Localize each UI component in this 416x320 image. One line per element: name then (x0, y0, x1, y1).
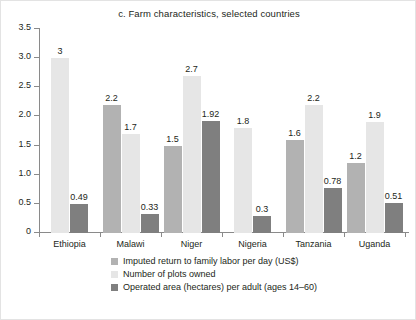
bar-value-label: 1.7 (124, 122, 137, 132)
x-tick-mark (222, 233, 223, 237)
legend-label: Number of plots owned (123, 269, 216, 279)
chart-figure: c. Farm characteristics, selected countr… (0, 0, 416, 320)
bar[interactable]: 1.92 (202, 121, 220, 233)
bar-value-label: 0.33 (141, 202, 159, 212)
legend-item[interactable]: Number of plots owned (111, 268, 317, 280)
x-axis-label-nigeria: Nigeria (222, 239, 283, 249)
legend-swatch-icon (111, 258, 118, 265)
bar-value-label: 0.78 (324, 176, 342, 186)
y-tick-label: 3.5 (1, 22, 31, 32)
bar-value-label: 2.2 (307, 93, 320, 103)
chart-title: c. Farm characteristics, selected countr… (1, 8, 416, 19)
y-tick-label: 1.0 (1, 168, 31, 178)
x-tick-mark (100, 233, 101, 237)
bar-value-label: 1.8 (237, 116, 250, 126)
x-axis-label-niger: Niger (161, 239, 222, 249)
bar-value-label: 1.6 (288, 128, 301, 138)
y-tick-label: 3.0 (1, 51, 31, 61)
bar-group: 1.62.20.78 (286, 27, 342, 233)
legend-label: Operated area (hectares) per adult (ages… (123, 282, 317, 292)
bar-group: 30.49 (51, 27, 88, 233)
bar[interactable]: 2.2 (305, 105, 323, 233)
legend-swatch-icon (111, 271, 118, 278)
bar[interactable]: 1.2 (347, 163, 365, 233)
bar-group: 1.80.3 (234, 27, 271, 233)
bar[interactable]: 0.3 (253, 216, 271, 233)
bar-value-label: 1.9 (368, 110, 381, 120)
legend-label: Imputed return to family labor per day (… (123, 256, 299, 266)
bar[interactable]: 0.51 (385, 203, 403, 233)
bar[interactable]: 2.7 (183, 76, 201, 233)
bar-value-label: 0.49 (70, 192, 88, 202)
plot-area: 30.492.21.70.331.52.71.921.80.31.62.20.7… (39, 27, 405, 233)
bar[interactable]: 1.7 (122, 134, 140, 233)
bar[interactable]: 0.33 (141, 214, 159, 233)
legend-item[interactable]: Operated area (hectares) per adult (ages… (111, 281, 317, 293)
x-axis-label-uganda: Uganda (344, 239, 405, 249)
bar-value-label: 1.2 (349, 151, 362, 161)
bar[interactable]: 0.49 (70, 204, 88, 233)
bar[interactable]: 0.78 (324, 188, 342, 233)
y-tick-label: 0 (1, 226, 31, 236)
bar[interactable]: 2.2 (103, 105, 121, 233)
bar-value-label: 1.92 (202, 109, 220, 119)
bar[interactable]: 1.6 (286, 140, 304, 233)
x-axis-label-tanzania: Tanzania (283, 239, 344, 249)
bar-value-label: 2.2 (105, 93, 118, 103)
bar-value-label: 2.7 (185, 64, 198, 74)
bar-value-label: 0.51 (385, 191, 403, 201)
bar-value-label: 1.5 (166, 134, 179, 144)
bar-group: 1.21.90.51 (347, 27, 403, 233)
x-axis-label-ethiopia: Ethiopia (39, 239, 100, 249)
bar-group: 1.52.71.92 (164, 27, 220, 233)
y-tick-label: 0.5 (1, 197, 31, 207)
bar[interactable]: 1.9 (366, 122, 384, 233)
bar[interactable]: 3 (51, 58, 69, 233)
x-tick-mark (283, 233, 284, 237)
bar[interactable]: 1.5 (164, 146, 182, 233)
bar[interactable]: 1.8 (234, 128, 252, 233)
x-tick-mark (344, 233, 345, 237)
bar-value-label: 3 (57, 46, 62, 56)
x-axis-label-malawi: Malawi (100, 239, 161, 249)
bar-group: 2.21.70.33 (103, 27, 159, 233)
chart-legend: Imputed return to family labor per day (… (111, 255, 317, 294)
y-tick-label: 2.5 (1, 80, 31, 90)
x-tick-mark (405, 233, 406, 237)
x-tick-mark (39, 233, 40, 237)
bar-value-label: 0.3 (256, 204, 269, 214)
legend-item[interactable]: Imputed return to family labor per day (… (111, 255, 317, 267)
x-tick-mark (161, 233, 162, 237)
legend-swatch-icon (111, 284, 118, 291)
y-tick-label: 1.5 (1, 139, 31, 149)
y-tick-label: 2.0 (1, 109, 31, 119)
